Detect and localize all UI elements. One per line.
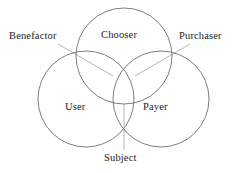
circle-user — [38, 51, 134, 147]
callout-label-subject: Subject — [104, 152, 137, 164]
venn-diagram-canvas — [0, 0, 242, 173]
set-label-chooser: Chooser — [101, 29, 137, 41]
purchaser-leader-line — [135, 44, 190, 76]
circle-payer — [113, 51, 209, 147]
callout-label-benefactor: Benefactor — [9, 30, 57, 42]
callout-label-purchaser: Purchaser — [179, 30, 222, 42]
set-label-user: User — [65, 101, 85, 113]
venn-diagram: Chooser User Payer Benefactor Purchaser … — [0, 0, 242, 173]
circle-chooser — [76, 8, 172, 104]
set-label-payer: Payer — [143, 101, 168, 113]
benefactor-leader-line — [58, 44, 113, 76]
